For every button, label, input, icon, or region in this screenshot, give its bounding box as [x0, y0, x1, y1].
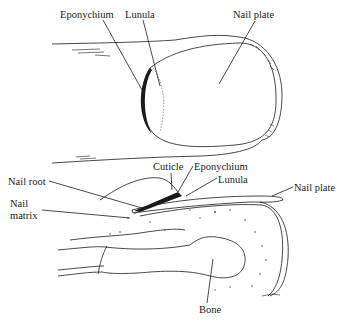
leader-nail-plate-top: [219, 21, 255, 84]
label-eponychium-section: Eponychium: [194, 161, 248, 173]
leader-nail-plate-section: [272, 187, 293, 196]
label-cuticle: Cuticle: [153, 161, 183, 173]
leader-cuticle: [171, 173, 172, 190]
label-lunula-section: Lunula: [218, 174, 248, 186]
eponychium-crescent: [141, 68, 152, 134]
leader-eponychium-top: [103, 20, 142, 90]
label-nail-matrix-line1: Nail: [10, 198, 28, 210]
leader-bone: [207, 259, 213, 303]
leader-nail-matrix: [42, 210, 130, 218]
leader-lunula-section: [186, 178, 217, 196]
label-nail-plate-section: Nail plate: [294, 182, 335, 194]
label-lunula-top: Lunula: [125, 9, 155, 21]
label-bone: Bone: [199, 304, 221, 316]
label-nail-plate-top: Nail plate: [233, 9, 274, 21]
label-nail-root: Nail root: [8, 176, 46, 188]
label-eponychium-top: Eponychium: [60, 9, 114, 21]
nail-anatomy-figure: Eponychium Lunula Nail plate Cuticle Epo…: [0, 0, 345, 323]
leader-nail-root: [49, 181, 142, 208]
label-nail-matrix-line2: matrix: [10, 210, 37, 222]
